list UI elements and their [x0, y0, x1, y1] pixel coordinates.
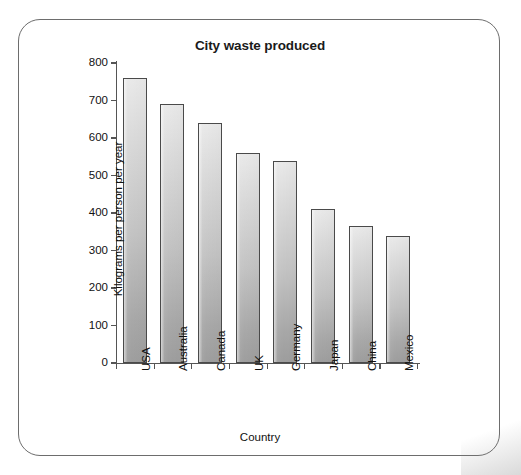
x-tick-label: Germany	[290, 324, 302, 371]
y-axis-title: Kilograms per person per year	[112, 142, 124, 297]
y-tick-label: 700	[62, 94, 108, 106]
x-tick-mark	[267, 364, 268, 369]
x-tick-label: USA	[140, 347, 152, 371]
bar-chart: City waste produced 01002003004005006007…	[19, 20, 501, 457]
y-tick-label: 800	[62, 56, 108, 68]
y-tick-label: 500	[62, 169, 108, 181]
bar	[198, 123, 222, 363]
y-tick-mark	[111, 62, 116, 63]
x-tick-mark	[154, 364, 155, 369]
page-root: City waste produced 01002003004005006007…	[0, 0, 521, 475]
x-tick-mark	[304, 364, 305, 369]
x-tick-label: UK	[253, 355, 265, 371]
bar	[236, 153, 260, 363]
y-tick-label: 300	[62, 244, 108, 256]
y-tick-mark	[111, 137, 116, 138]
y-tick-label: 600	[62, 131, 108, 143]
plot-area: 0100200300400500600700800	[116, 63, 417, 363]
x-tick-mark	[191, 364, 192, 369]
x-tick-label: Japan	[328, 340, 340, 371]
x-tick-mark	[116, 364, 117, 369]
x-tick-mark	[229, 364, 230, 369]
y-tick-label: 100	[62, 319, 108, 331]
y-tick-mark	[111, 325, 116, 326]
chart-title: City waste produced	[19, 38, 501, 53]
y-tick-label: 0	[62, 356, 108, 368]
x-tick-label: Australia	[177, 326, 189, 371]
chart-card-frame: City waste produced 01002003004005006007…	[18, 19, 500, 456]
y-tick-mark	[111, 100, 116, 101]
y-tick-label: 200	[62, 281, 108, 293]
bar	[123, 78, 147, 363]
x-tick-mark	[342, 364, 343, 369]
x-tick-label: Canada	[215, 331, 227, 371]
x-tick-label: China	[366, 341, 378, 371]
bar	[160, 104, 184, 363]
x-tick-mark	[417, 364, 418, 369]
x-tick-mark	[379, 364, 380, 369]
x-tick-label: Mexico	[403, 335, 415, 371]
x-axis-title: Country	[19, 431, 501, 443]
y-tick-label: 400	[62, 206, 108, 218]
